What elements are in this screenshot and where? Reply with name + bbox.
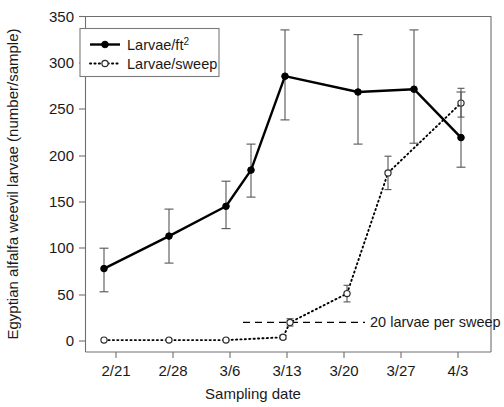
- data-point: [355, 89, 362, 96]
- threshold-annotation: 20 larvae per sweep: [243, 314, 501, 330]
- x-tick-label: 3/20: [329, 362, 358, 379]
- y-axis-title: Egyptian alfalfa weevil larvae (number/s…: [4, 29, 21, 340]
- x-axis-title: Sampling date: [205, 385, 301, 402]
- sweep-line: [104, 103, 461, 340]
- x-tick-label: 3/13: [272, 362, 301, 379]
- data-point: [280, 334, 286, 340]
- data-point: [344, 291, 350, 297]
- y-tick-label: 300: [49, 54, 74, 71]
- threshold-label: 20 larvae per sweep: [370, 314, 501, 330]
- series-larvae-per-sweep: [101, 88, 465, 343]
- data-point: [101, 337, 107, 343]
- x-tick-label: 4/3: [448, 362, 469, 379]
- y-tick-label: 250: [49, 100, 74, 117]
- y-tick-label: 100: [49, 239, 74, 256]
- sqft-line: [104, 76, 461, 268]
- legend-label-sweep: Larvae/sweep: [127, 56, 217, 72]
- data-point: [385, 170, 391, 176]
- x-tick-label: 2/28: [158, 362, 187, 379]
- data-point: [282, 73, 289, 80]
- chart-figure: 350 300 250 200 150 100 50 0 2/21 2/28 3…: [0, 0, 504, 407]
- open-circle-icon: [102, 60, 108, 66]
- filled-circle-icon: [102, 41, 109, 48]
- x-axis-ticks: 2/21 2/28 3/6 3/13 3/20 3/27 4/3: [101, 352, 468, 379]
- sweep-data-points: [101, 100, 464, 343]
- data-point: [223, 203, 230, 210]
- y-tick-label: 150: [49, 193, 74, 210]
- y-tick-label: 200: [49, 147, 74, 164]
- data-point: [287, 319, 293, 325]
- legend-label-sqft: Larvae/ft2: [127, 36, 189, 53]
- data-point: [248, 167, 255, 174]
- y-tick-label: 350: [49, 8, 74, 25]
- x-tick-label: 2/21: [101, 362, 130, 379]
- data-point: [411, 86, 418, 93]
- data-point: [101, 265, 108, 272]
- x-tick-label: 3/27: [386, 362, 415, 379]
- chart-svg: 350 300 250 200 150 100 50 0 2/21 2/28 3…: [0, 0, 504, 407]
- data-point: [458, 134, 465, 141]
- data-point: [166, 337, 172, 343]
- data-point: [166, 233, 173, 240]
- y-tick-label: 0: [66, 332, 74, 349]
- y-tick-label: 50: [57, 286, 74, 303]
- x-tick-label: 3/6: [220, 362, 241, 379]
- chart-legend: Larvae/ft2 Larvae/sweep: [80, 29, 219, 77]
- data-point: [223, 337, 229, 343]
